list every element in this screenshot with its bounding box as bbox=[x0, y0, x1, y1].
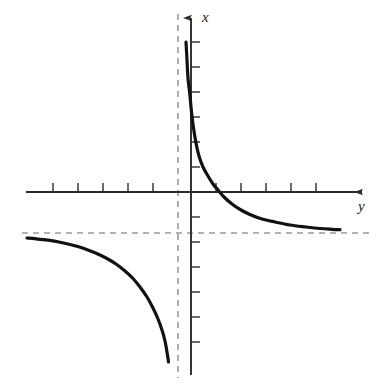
curve-branch-upper-right bbox=[186, 42, 340, 230]
axis-group bbox=[26, 18, 362, 375]
vertical-axis-label: x bbox=[202, 10, 209, 25]
horizontal-axis-label: y bbox=[358, 199, 365, 214]
curve-group bbox=[27, 42, 340, 362]
horizontal-axis-ticks bbox=[53, 183, 316, 192]
curve-branch-lower-left bbox=[27, 238, 169, 362]
asymptote-group bbox=[22, 14, 372, 378]
plot-canvas bbox=[0, 0, 382, 388]
graph-figure: x y bbox=[0, 0, 382, 388]
